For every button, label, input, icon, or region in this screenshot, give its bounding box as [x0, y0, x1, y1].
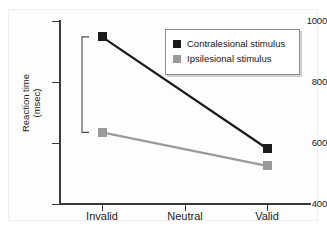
y-axis-title-line2: (msec) — [31, 48, 42, 158]
legend-item-contralesional: Contralesional stimulus — [173, 38, 293, 49]
data-point-contralesional-valid — [263, 144, 272, 153]
legend-swatch-icon-ipsilesional — [173, 55, 181, 63]
x-tick-label-valid: Valid — [227, 210, 307, 222]
legend: Contralesional stimulus Ipsilesional sti… — [165, 29, 300, 75]
data-point-ipsilesional-invalid — [98, 128, 107, 137]
y-axis-title: Reaction time (msec) — [20, 48, 42, 158]
y-axis-line — [59, 20, 61, 205]
y-tick-800 — [52, 82, 59, 83]
data-point-ipsilesional-valid — [263, 161, 272, 170]
y-axis-title-line1: Reaction time — [20, 48, 31, 158]
x-tick-label-neutral: Neutral — [145, 210, 225, 222]
data-point-contralesional-invalid — [98, 32, 107, 41]
x-tick-label-invalid: Invalid — [62, 210, 142, 222]
y-tick-1000 — [52, 21, 59, 22]
legend-swatch-icon-contralesional — [173, 40, 181, 48]
y-tick-label-1000: 1000 — [281, 15, 327, 26]
legend-item-ipsilesional: Ipsilesional stimulus — [173, 53, 293, 64]
legend-label-ipsilesional: Ipsilesional stimulus — [187, 53, 271, 64]
y-tick-label-800: 800 — [281, 76, 327, 87]
legend-label-contralesional: Contralesional stimulus — [187, 38, 285, 49]
y-tick-600 — [52, 143, 59, 144]
y-tick-400 — [52, 204, 59, 205]
y-tick-label-600: 600 — [281, 137, 327, 148]
figure: 1000 800 600 400 Reaction time (msec) In… — [0, 0, 327, 240]
